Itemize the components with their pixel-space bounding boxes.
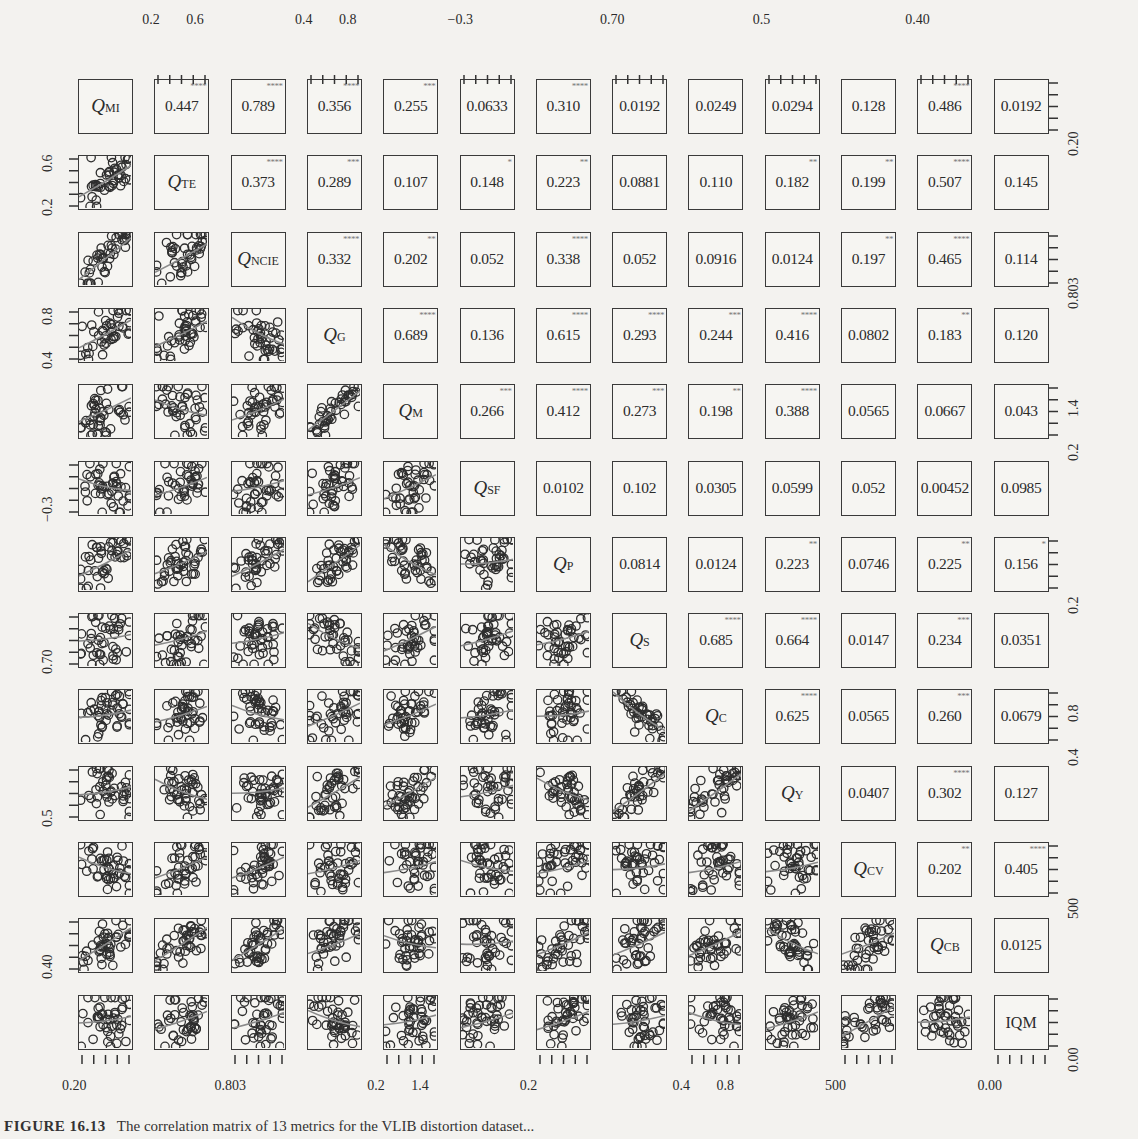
scatter-points xyxy=(232,843,284,895)
correlation-cell: 0.114 xyxy=(994,232,1049,287)
correlation-cell: 0.0916 xyxy=(688,232,743,287)
scatter-plot-cell xyxy=(383,918,438,973)
scatter-points xyxy=(155,919,207,971)
scatter-plot-cell xyxy=(78,842,133,897)
correlation-cell: 0.107 xyxy=(383,155,438,210)
scatter-plot-cell xyxy=(154,613,209,668)
significance-stars: ** xyxy=(961,540,969,549)
scatter-points xyxy=(842,919,894,971)
correlation-cell: 0.0565 xyxy=(841,689,896,744)
axis-tick-label: 0.20 xyxy=(62,1078,87,1094)
correlation-value: 0.0746 xyxy=(842,555,895,573)
scatter-plot-cell xyxy=(460,766,515,821)
scatter-plot-cell xyxy=(460,842,515,897)
scatter-plot-cell xyxy=(78,308,133,363)
correlation-value: 0.465 xyxy=(918,250,971,268)
scatter-points xyxy=(308,385,360,437)
correlation-cell: 0.0147 xyxy=(841,613,896,668)
correlation-value: 0.789 xyxy=(232,97,285,115)
scatter-plot-cell xyxy=(383,842,438,897)
variable-symbol: Q xyxy=(473,477,487,498)
scatter-plot-cell xyxy=(383,461,438,516)
scatter-points xyxy=(308,767,360,819)
axis-ticks xyxy=(1049,995,1058,1054)
axis-ticks xyxy=(917,70,972,88)
scatter-plot-cell xyxy=(688,918,743,973)
scatter-plot-cell xyxy=(154,689,209,744)
correlation-cell: 0.615**** xyxy=(536,308,591,363)
scatter-points xyxy=(79,233,131,285)
axis-tick-label: 0.2 xyxy=(1066,444,1082,462)
variable-name: QG xyxy=(308,324,361,346)
scatter-plot-cell xyxy=(536,995,591,1050)
correlation-cell: 0.183** xyxy=(917,308,972,363)
scatter-plot-cell xyxy=(612,689,667,744)
axis-ticks xyxy=(383,1050,438,1068)
correlation-value: 0.102 xyxy=(613,479,666,497)
scatter-points xyxy=(232,538,284,590)
correlation-cell: 0.388**** xyxy=(765,384,820,439)
axis-tick-label: 0.00 xyxy=(1066,1047,1082,1072)
axis-tick-label: 0.803 xyxy=(215,1078,247,1094)
variable-name: QY xyxy=(766,782,819,804)
significance-stars: ** xyxy=(580,158,588,167)
correlation-value: 0.0916 xyxy=(689,250,742,268)
correlation-value: 0.310 xyxy=(537,97,590,115)
diagonal-label-cell: QCV xyxy=(841,842,896,897)
correlation-cell: 0.0192 xyxy=(994,79,1049,134)
correlation-cell: 0.0599 xyxy=(765,461,820,516)
scatter-points xyxy=(766,919,818,971)
scatter-plot-cell xyxy=(460,918,515,973)
correlation-value: 0.338 xyxy=(537,250,590,268)
correlation-value: 0.00452 xyxy=(918,479,971,497)
correlation-value: 0.223 xyxy=(766,555,819,573)
correlation-value: 0.043 xyxy=(995,402,1048,420)
scatter-points xyxy=(79,156,131,208)
correlation-cell: 0.148* xyxy=(460,155,515,210)
correlation-value: 0.0249 xyxy=(689,97,742,115)
axis-tick-label: 0.6 xyxy=(186,12,204,28)
scatter-points xyxy=(155,690,207,742)
significance-stars: ** xyxy=(885,158,893,167)
scatter-plot-cell xyxy=(307,613,362,668)
correlation-cell: 0.664**** xyxy=(765,613,820,668)
scatter-points xyxy=(537,614,589,666)
correlation-value: 0.664 xyxy=(766,631,819,649)
correlation-value: 0.0125 xyxy=(995,936,1048,954)
significance-stars: ** xyxy=(961,311,969,320)
scatter-plot-cell xyxy=(231,308,286,363)
correlation-cell: 0.145 xyxy=(994,155,1049,210)
significance-stars: **** xyxy=(572,82,588,91)
scatter-points xyxy=(537,690,589,742)
correlation-cell: 0.338**** xyxy=(536,232,591,287)
correlation-cell: 0.198** xyxy=(688,384,743,439)
scatter-points xyxy=(155,767,207,819)
correlation-value: 0.0351 xyxy=(995,631,1048,649)
scatter-points xyxy=(613,919,665,971)
scatter-points xyxy=(461,690,513,742)
scatter-points xyxy=(461,996,513,1048)
scatter-points xyxy=(613,843,665,895)
scatter-points xyxy=(79,462,131,514)
trend-line xyxy=(79,237,131,279)
correlation-value: 0.412 xyxy=(537,402,590,420)
variable-symbol: Q xyxy=(853,858,867,879)
correlation-cell: 0.685**** xyxy=(688,613,743,668)
correlation-cell: 0.0802 xyxy=(841,308,896,363)
scatter-points xyxy=(79,996,131,1048)
scatter-plot-cell xyxy=(688,995,743,1050)
significance-stars: **** xyxy=(801,692,817,701)
scatter-plot-cell xyxy=(460,995,515,1050)
axis-ticks xyxy=(1049,842,1058,901)
scatter-plot-cell xyxy=(460,689,515,744)
correlation-cell: 0.0679 xyxy=(994,689,1049,744)
correlation-cell: 0.223** xyxy=(765,537,820,592)
scatter-plot-cell xyxy=(231,384,286,439)
significance-stars: **** xyxy=(648,311,664,320)
correlation-cell: 0.043 xyxy=(994,384,1049,439)
correlation-value: 0.373 xyxy=(232,173,285,191)
significance-stars: ** xyxy=(885,235,893,244)
significance-stars: **** xyxy=(419,311,435,320)
correlation-value: 0.486 xyxy=(918,97,971,115)
variable-symbol: IQM xyxy=(1006,1014,1037,1031)
